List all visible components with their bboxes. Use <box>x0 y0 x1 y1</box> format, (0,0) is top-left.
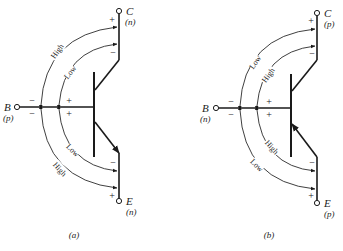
emitter-terminal-b <box>314 200 319 205</box>
emitter-diagonal-b <box>292 124 317 157</box>
transistor-bias-figure: High Low Low High + − − − + + − + C (n) … <box>0 0 343 251</box>
arc-high-cb-a <box>41 27 117 105</box>
sign-collector-top-b: + <box>308 15 314 26</box>
arc-label-top-outer-b: Low <box>248 54 264 71</box>
sign-base-right-bottom-b: + <box>266 109 272 120</box>
arc-label-top-inner-a: Low <box>62 64 78 81</box>
sign-emitter-bottom-b: + <box>308 190 314 201</box>
base-letter-b: B <box>202 102 209 114</box>
base-terminal-b <box>213 105 218 110</box>
emitter-terminal-a <box>116 198 121 203</box>
arc-label-bottom-inner-a: Low <box>64 142 81 159</box>
emitter-letter-b: E <box>323 197 331 209</box>
sign-emitter-top-b: − <box>309 157 315 168</box>
collector-terminal-a <box>116 8 121 13</box>
emitter-letter-a: E <box>125 195 133 207</box>
collector-type-a: (n) <box>125 17 136 27</box>
collector-diagonal-a <box>95 60 119 90</box>
collector-terminal-b <box>314 10 319 15</box>
sign-base-left-bottom-b: − <box>228 109 234 120</box>
sign-base-right-bottom-a: + <box>66 108 72 119</box>
base-terminal-a <box>14 104 19 109</box>
sign-emitter-bottom-a: + <box>109 190 115 201</box>
diagram-b-pnp: Low High High Low + − − − + + − + C (p) … <box>200 7 335 240</box>
arc-high-eb-a <box>41 109 117 188</box>
sign-base-left-top-a: − <box>29 95 35 106</box>
sign-base-left-top-b: − <box>228 96 234 107</box>
emitter-diagonal-a <box>95 122 119 153</box>
sign-collector-bottom-a: − <box>110 47 116 58</box>
sign-collector-top-a: + <box>109 14 115 25</box>
collector-letter-a: C <box>126 5 134 17</box>
base-type-b: (n) <box>200 114 211 124</box>
base-type-a: (p) <box>3 113 14 123</box>
emitter-type-a: (n) <box>126 207 137 217</box>
diagram-a-npn: High Low Low High + − − − + + − + C (n) … <box>3 5 137 240</box>
sign-emitter-top-a: − <box>110 157 116 168</box>
emitter-type-b: (p) <box>324 209 335 219</box>
sign-base-right-top-a: + <box>66 95 72 106</box>
caption-b: (b) <box>264 230 275 240</box>
arc-label-bottom-outer-b: Low <box>248 157 265 174</box>
caption-a: (a) <box>69 230 80 240</box>
collector-letter-b: C <box>324 7 332 19</box>
sign-base-left-bottom-a: − <box>29 108 35 119</box>
collector-type-b: (p) <box>324 19 335 29</box>
sign-base-right-top-b: + <box>266 96 272 107</box>
sign-collector-bottom-b: − <box>309 48 315 59</box>
base-letter-a: B <box>4 101 11 113</box>
collector-diagonal-b <box>292 60 317 91</box>
